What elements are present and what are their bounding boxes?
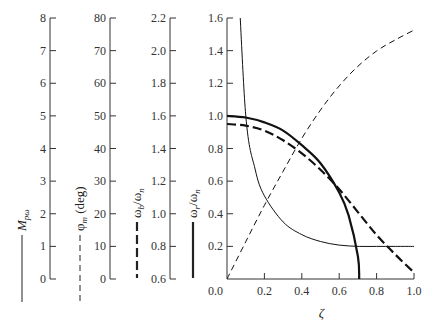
tick-label-main-y: 1.4 (208, 44, 223, 58)
tick-label-x: 0.8 (369, 284, 384, 298)
tick-label-M: 4 (40, 142, 46, 156)
tick-label-wb: 1.0 (151, 207, 166, 221)
tick-label-M: 2 (40, 207, 46, 221)
tick-label-phi: 40 (94, 142, 106, 156)
tick-label-phi: 50 (94, 109, 106, 123)
tick-label-phi: 70 (94, 44, 106, 58)
tick-label-main-y: 0.4 (208, 207, 223, 221)
tick-label-M: 1 (40, 239, 46, 253)
series-thick-solid (227, 116, 359, 279)
tick-label-phi: 0 (100, 272, 106, 286)
tick-label-main-y: 1.0 (208, 109, 223, 123)
tick-label-wb: 2.0 (151, 44, 166, 58)
tick-label-M: 7 (40, 44, 46, 58)
tick-label-phi: 30 (94, 174, 106, 188)
series-thin-solid (233, 0, 414, 246)
tick-label-M: 8 (40, 11, 46, 25)
tick-label-phi: 60 (94, 76, 106, 90)
tick-label-wb: 1.2 (151, 174, 166, 188)
axes-group: 012345678010203040506070800.60.81.01.21.… (14, 11, 422, 320)
tick-label-x: 0.2 (257, 284, 272, 298)
tick-label-wb: 1.8 (151, 76, 166, 90)
tick-label-phi: 80 (94, 11, 106, 25)
tick-label-phi: 10 (94, 239, 106, 253)
tick-label-x: 0.4 (294, 284, 309, 298)
series-thick-dashed (227, 124, 414, 273)
legend-label: Mpω (14, 209, 31, 232)
tick-label-M: 6 (40, 76, 46, 90)
tick-label-x: 1.0 (407, 284, 422, 298)
legend-label: ωb/ωn (129, 188, 146, 218)
tick-label-wb: 0.6 (151, 272, 166, 286)
legend-label: ωr/ωn (185, 189, 202, 218)
tick-label-M: 0 (40, 272, 46, 286)
tick-label-phi: 20 (94, 207, 106, 221)
tick-label-main-y: 0.2 (208, 239, 223, 253)
tick-label-wb: 2.2 (151, 11, 166, 25)
tick-label-main-y: 0.0 (208, 284, 223, 298)
tick-label-main-y: 0.8 (208, 142, 223, 156)
tick-label-x: 0.6 (332, 284, 347, 298)
tick-label-wb: 1.6 (151, 109, 166, 123)
x-axis-label: ζ (319, 305, 325, 320)
tick-label-main-y: 1.2 (208, 76, 223, 90)
chart: 012345678010203040506070800.60.81.01.21.… (0, 0, 435, 322)
legend-label: φm (deg) (72, 186, 89, 231)
tick-label-M: 5 (40, 109, 46, 123)
tick-label-M: 3 (40, 174, 46, 188)
tick-label-main-y: 0.6 (208, 174, 223, 188)
curves-group (227, 0, 414, 279)
tick-label-main-y: 1.6 (208, 11, 223, 25)
tick-label-wb: 1.4 (151, 142, 166, 156)
tick-label-wb: 0.8 (151, 239, 166, 253)
